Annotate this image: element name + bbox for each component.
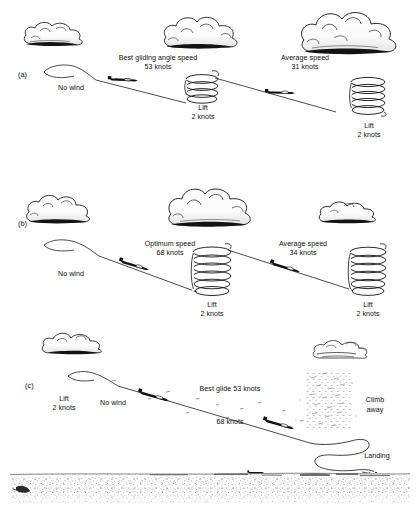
- panel-id-a: (a): [18, 70, 27, 79]
- cumulus-cloud-icon: [24, 22, 82, 46]
- glider-icon: [138, 388, 170, 402]
- label-lift-b-right-value: 2 knots: [356, 310, 379, 319]
- label-no-wind: No wind: [58, 84, 84, 93]
- cumulus-cloud-icon: [169, 189, 250, 227]
- label-lift-b-left-value: 2 knots: [200, 310, 223, 319]
- cumulus-cloud-icon: [319, 202, 375, 223]
- label-no-wind-b: No wind: [58, 270, 84, 279]
- thermal-column: [295, 372, 356, 430]
- label-climb-away-line2: away: [367, 406, 384, 415]
- label-lift-c-value: 2 knots: [52, 404, 75, 413]
- label-lift-a-right-value: 2 knots: [357, 131, 380, 140]
- cumulus-cloud-icon: [302, 13, 396, 55]
- ground-texture: [10, 470, 410, 503]
- label-68-knots: 68 knots: [216, 418, 243, 427]
- label-average-speed-b: Average speed: [279, 240, 327, 249]
- label-average-speed-a-value: 31 knots: [291, 63, 318, 72]
- label-average-speed-a: Average speed: [281, 54, 329, 63]
- thermal-lift-spiral: [350, 77, 387, 116]
- cumulus-cloud-icon: [27, 195, 90, 223]
- glider-icon: [270, 259, 301, 273]
- label-lift-a-right: Lift: [364, 122, 374, 131]
- label-lift-b-left: Lift: [207, 301, 217, 310]
- label-landing: Landing: [364, 452, 390, 461]
- panel-a: [24, 13, 396, 117]
- label-lift-a-left-value: 2 knots: [191, 113, 214, 122]
- cumulus-cloud-icon: [42, 333, 101, 354]
- label-best-gliding-angle-speed: Best gliding angle speed: [119, 54, 198, 63]
- panel-c: [10, 333, 410, 503]
- thermal-lift-spiral: [191, 244, 231, 296]
- glide-path-a2: [215, 78, 336, 112]
- panel-id-b: (b): [18, 219, 27, 228]
- glider-icon: [108, 76, 138, 82]
- panel-b: [27, 189, 386, 296]
- soaring-diagram: [0, 0, 420, 515]
- panel-id-c: (c): [25, 381, 34, 390]
- cumulus-cloud-icon: [164, 17, 237, 48]
- label-lift-a-left: Lift: [198, 104, 208, 113]
- label-lift-b-right: Lift: [363, 301, 373, 310]
- label-best-gliding-angle-speed-value: 53 knots: [144, 63, 171, 72]
- thermal-lift-spiral: [348, 244, 386, 296]
- label-lift-c: Lift: [59, 395, 69, 404]
- label-optimum-speed-value: 68 knots: [156, 249, 183, 258]
- label-best-glide: Best glide 53 knots: [200, 385, 261, 394]
- label-average-speed-b-value: 34 knots: [289, 249, 316, 258]
- glider-icon: [263, 416, 295, 430]
- label-optimum-speed: Optimum speed: [145, 240, 196, 249]
- label-climb-away-line1: Climb: [366, 396, 384, 405]
- wispy-cloud-icon: [313, 341, 367, 359]
- figure-page: (a) (b) (c) No wind Best gliding angle s…: [0, 0, 420, 515]
- thermal-lift-spiral: [185, 71, 219, 103]
- label-no-wind-c: No wind: [100, 399, 126, 408]
